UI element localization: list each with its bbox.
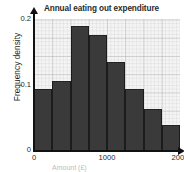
chart-title: Annual eating out expenditure <box>44 4 159 13</box>
x-axis-line <box>33 150 179 152</box>
y-axis-line <box>33 13 35 152</box>
y-tick-label: 0.1 <box>20 80 31 89</box>
histogram-bar <box>71 26 89 150</box>
histogram-figure: Annual eating out expenditure 00.10.2 01… <box>0 0 184 172</box>
histogram-bar <box>34 89 52 150</box>
plot-area <box>34 19 180 150</box>
x-tick-label: 2000 <box>0 153 184 162</box>
x-tick-labels: 010002000 <box>0 153 184 165</box>
histogram-bar <box>52 81 70 150</box>
y-axis-title: Frequency density <box>12 12 22 122</box>
x-axis-title: Amount (£) <box>52 164 87 172</box>
y-tick-label: 0.2 <box>20 14 31 23</box>
histogram-bar <box>107 62 125 150</box>
bar-series <box>34 19 180 150</box>
histogram-bar <box>144 109 162 150</box>
histogram-bar <box>89 35 107 150</box>
histogram-bar <box>125 89 143 150</box>
